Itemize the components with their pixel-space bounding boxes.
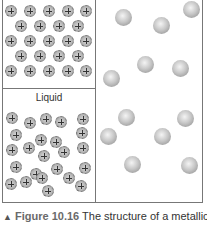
metal-ion-icon — [40, 113, 52, 125]
metal-ion-icon — [35, 134, 47, 146]
metal-ion-icon — [43, 5, 55, 17]
metal-ion-icon — [24, 35, 36, 47]
gas-atom-icon — [183, 1, 200, 18]
metal-ion-icon — [62, 5, 74, 17]
gas-atom-icon — [124, 156, 141, 173]
metal-ion-icon — [77, 142, 89, 154]
metal-ion-icon — [5, 65, 17, 77]
metal-ion-icon — [6, 144, 18, 156]
gas-atom-icon — [181, 157, 198, 174]
metal-ion-icon — [76, 127, 88, 139]
metal-ion-icon — [43, 65, 55, 77]
gas-atom-icon — [153, 17, 170, 34]
metal-ion-icon — [23, 142, 35, 154]
metal-ion-icon — [77, 113, 89, 125]
metal-ion-icon — [80, 65, 92, 77]
metal-ion-icon — [15, 50, 27, 62]
metal-ion-icon — [34, 50, 46, 62]
metal-ion-icon — [10, 161, 22, 173]
metal-ion-icon — [5, 5, 17, 17]
triangle-marker-icon: ▲ — [3, 212, 12, 222]
figure-number: Figure 10.16 — [15, 210, 79, 222]
gas-atom-icon — [154, 128, 171, 145]
metal-ion-icon — [55, 116, 67, 128]
metal-ion-icon — [53, 50, 65, 62]
metal-ion-icon — [24, 65, 36, 77]
metal-ion-icon — [20, 176, 32, 188]
metal-ion-icon — [51, 163, 63, 175]
gas-atom-icon — [177, 110, 194, 127]
metal-ion-icon — [63, 172, 75, 184]
metal-ion-icon — [75, 180, 87, 192]
metal-ion-icon — [43, 35, 55, 47]
metal-ion-icon — [58, 146, 70, 158]
metal-ion-icon — [53, 20, 65, 32]
metal-ion-icon — [72, 50, 84, 62]
caption-text: The structure of a metallic — [79, 210, 207, 222]
metal-ion-icon — [5, 35, 17, 47]
metal-ion-icon — [42, 185, 54, 197]
metal-ion-icon — [62, 35, 74, 47]
metal-ion-icon — [80, 5, 92, 17]
liquid-label: Liquid — [2, 92, 96, 103]
metal-ion-icon — [5, 178, 17, 190]
gas-atom-icon — [100, 128, 117, 145]
gas-atom-icon — [172, 60, 189, 77]
gas-atom-icon — [103, 70, 120, 87]
metal-ion-icon — [38, 150, 50, 162]
metal-ion-icon — [24, 5, 36, 17]
metal-ion-icon — [62, 65, 74, 77]
metal-ion-icon — [6, 112, 18, 124]
panel-divider-horizontal — [2, 88, 96, 89]
metal-ion-icon — [10, 129, 22, 141]
gas-atom-icon — [137, 56, 154, 73]
metal-ion-icon — [34, 20, 46, 32]
metal-ion-icon — [24, 117, 36, 129]
metal-ion-icon — [15, 20, 27, 32]
metal-ion-icon — [36, 172, 48, 184]
gas-atom-icon — [115, 9, 132, 26]
metal-ion-icon — [72, 20, 84, 32]
gas-atom-icon — [118, 109, 135, 126]
figure-caption: ▲ Figure 10.16 The structure of a metall… — [3, 210, 207, 222]
metal-ion-icon — [79, 162, 91, 174]
metal-ion-icon — [80, 35, 92, 47]
